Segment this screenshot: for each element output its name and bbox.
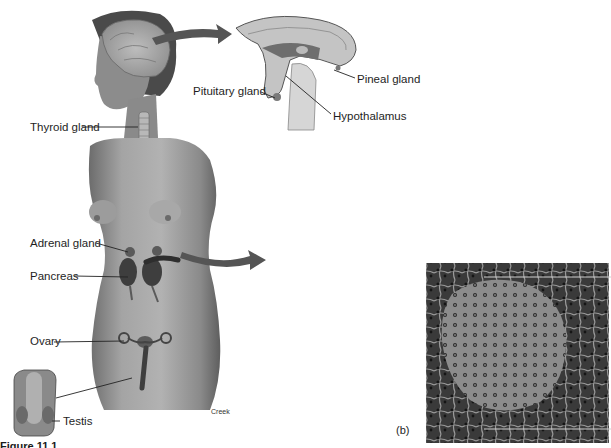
pancreatic-islet-micrograph	[426, 263, 611, 443]
anatomy-illustration	[0, 0, 611, 448]
label-hypothalamus: Hypothalamus	[333, 110, 407, 123]
figure-caption-partial: Figure 11.1	[0, 440, 57, 448]
artist-credit: Creek	[211, 405, 230, 418]
label-pineal-gland: Pineal gland	[357, 73, 420, 86]
label-adrenal-gland: Adrenal gland	[30, 237, 101, 250]
label-thyroid-gland: Thyroid gland	[30, 121, 100, 134]
female-figure	[89, 11, 220, 410]
part-label-b: (b)	[396, 424, 409, 437]
label-pituitary-gland: Pituitary gland	[193, 85, 266, 98]
label-testis: Testis	[63, 415, 92, 428]
label-ovary: Ovary	[30, 335, 61, 348]
testis-inset	[14, 370, 56, 436]
endocrine-figure: Pituitary gland Pineal gland Hypothalamu…	[0, 0, 611, 448]
label-pancreas: Pancreas	[30, 270, 79, 283]
